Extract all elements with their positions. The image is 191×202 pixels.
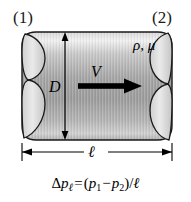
fluid-properties-label: ρ, μ [133, 38, 155, 53]
diameter-label: D [49, 79, 61, 95]
pressure-drop-variable: p [61, 175, 69, 191]
length-dimension-line [22, 143, 172, 161]
pipe-flow-diagram: (1) (2) [0, 0, 191, 202]
velocity-label: V [91, 64, 101, 80]
pressure-drop-equation: Δpℓ=(p1−p2)/ℓ [0, 176, 191, 193]
delta-symbol: Δ [51, 175, 61, 191]
pipe-illustration [0, 0, 191, 170]
length-denominator: ℓ [133, 175, 139, 191]
length-label: ℓ [88, 144, 95, 160]
minus-symbol: − [101, 175, 111, 191]
pressure-2-variable: p [112, 175, 120, 191]
equals-symbol: = [73, 175, 83, 191]
